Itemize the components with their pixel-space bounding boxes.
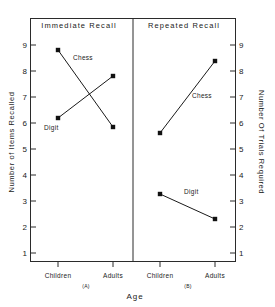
panel-b-cat-adults: Adults bbox=[205, 272, 225, 279]
left-tick-8: 8 bbox=[23, 67, 28, 76]
left-tick-7: 7 bbox=[23, 93, 28, 102]
left-tick-4: 4 bbox=[23, 171, 28, 180]
panel-b-sub-label: (B) bbox=[184, 283, 192, 289]
panel-a-sub-label: (A) bbox=[82, 283, 90, 289]
x-axis-ticks bbox=[58, 262, 215, 268]
panel-a-title: Immediate Recall bbox=[41, 21, 117, 30]
right-tick-2: 2 bbox=[239, 223, 244, 232]
panel-b-chess-point-children bbox=[158, 131, 162, 135]
chart-figure: 9 8 7 6 5 4 3 2 1 9 8 7 6 5 bbox=[0, 0, 275, 307]
panel-b-digit-line bbox=[160, 194, 215, 219]
panel-a-digit-point-children bbox=[56, 116, 60, 120]
right-tick-4: 4 bbox=[239, 171, 244, 180]
right-tick-9: 9 bbox=[239, 41, 244, 50]
panel-b-series-digit: Digit bbox=[158, 188, 217, 221]
panel-a-chess-point-adults bbox=[111, 125, 115, 129]
panel-b-cat-children: Children bbox=[147, 272, 174, 279]
left-tick-3: 3 bbox=[23, 197, 28, 206]
right-axis-tick-labels: 9 8 7 6 5 4 3 2 1 bbox=[239, 41, 244, 258]
left-tick-9: 9 bbox=[23, 41, 28, 50]
left-tick-1: 1 bbox=[23, 249, 28, 258]
right-tick-7: 7 bbox=[239, 93, 244, 102]
panel-a-chess-point-children bbox=[56, 48, 60, 52]
chart-canvas: 9 8 7 6 5 4 3 2 1 9 8 7 6 5 bbox=[0, 0, 275, 307]
panel-a-digit-line bbox=[58, 76, 113, 118]
panel-a-chess-line bbox=[58, 50, 113, 127]
x-axis-title: Age bbox=[126, 292, 143, 301]
right-tick-8: 8 bbox=[239, 67, 244, 76]
left-axis-tick-labels: 9 8 7 6 5 4 3 2 1 bbox=[23, 41, 28, 258]
panel-a-series-chess: Chess bbox=[56, 48, 115, 129]
panel-b-digit-point-adults bbox=[213, 217, 217, 221]
panel-b-series-chess: Chess bbox=[158, 59, 217, 135]
left-axis-title: Number of Items Recalled bbox=[7, 91, 16, 192]
panel-b-digit-point-children bbox=[158, 192, 162, 196]
left-axis-ticks bbox=[31, 45, 37, 253]
panel-a-digit-point-adults bbox=[111, 74, 115, 78]
panel-a-chess-label: Chess bbox=[73, 54, 93, 61]
panel-b-digit-label: Digit bbox=[184, 188, 199, 196]
right-tick-3: 3 bbox=[239, 197, 244, 206]
right-tick-5: 5 bbox=[239, 145, 244, 154]
left-tick-2: 2 bbox=[23, 223, 28, 232]
right-tick-6: 6 bbox=[239, 119, 244, 128]
right-axis-title: Number Of Trials Required bbox=[257, 90, 266, 194]
panel-b-title: Repeated Recall bbox=[148, 21, 220, 30]
panel-a-series-digit: Digit bbox=[44, 74, 115, 132]
panel-b-chess-point-adults bbox=[213, 59, 217, 63]
panel-a-cat-adults: Adults bbox=[103, 272, 123, 279]
right-axis-ticks bbox=[230, 45, 236, 253]
panel-a-digit-label: Digit bbox=[44, 124, 59, 132]
panel-b-chess-label: Chess bbox=[192, 92, 212, 99]
left-tick-6: 6 bbox=[23, 119, 28, 128]
right-tick-1: 1 bbox=[239, 249, 244, 258]
left-tick-5: 5 bbox=[23, 145, 28, 154]
panel-a-cat-children: Children bbox=[45, 272, 72, 279]
